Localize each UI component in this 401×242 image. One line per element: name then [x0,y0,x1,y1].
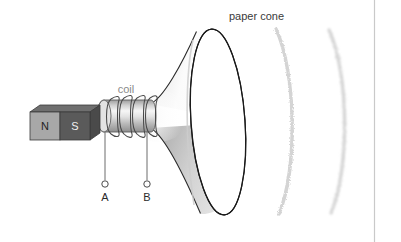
terminal-b-label: B [143,191,150,203]
coil-label: coil [118,83,135,95]
bar-magnet: N S [30,105,100,140]
terminal-leads: A B [101,132,150,203]
magnet-top-face [30,105,100,112]
loudspeaker-diagram: N S A B paper cone coil [0,0,401,242]
magnet-north-label: N [41,120,49,132]
sound-wave-arc-1 [276,29,292,214]
magnet-south-label: S [71,120,78,132]
diagram-canvas: N S A B paper cone coil [0,0,401,242]
terminal-a-post [102,181,108,187]
sound-wave-arc-2 [329,30,345,213]
coil [97,95,157,137]
terminal-a-label: A [101,191,109,203]
terminal-b-post [144,181,150,187]
paper-cone-label: paper cone [229,10,284,22]
sound-waves [276,29,345,214]
